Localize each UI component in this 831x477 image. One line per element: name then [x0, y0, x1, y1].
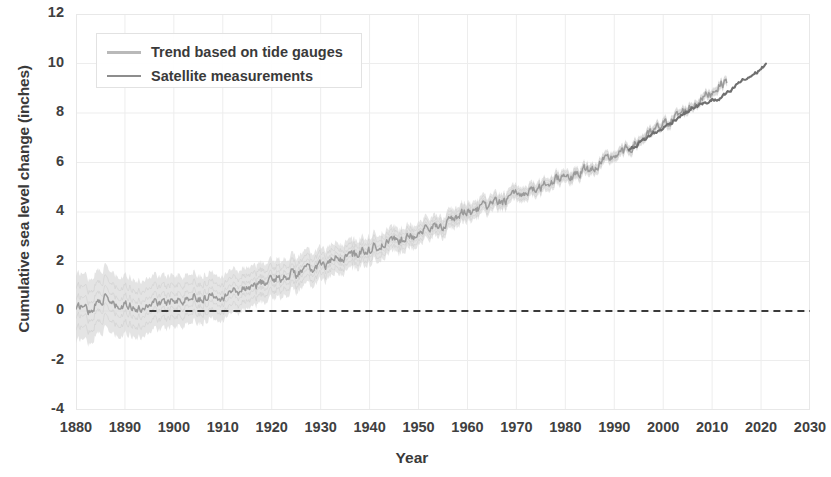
- y-tick--4: -4: [24, 400, 64, 416]
- y-tick-6: 6: [24, 153, 64, 169]
- y-tick--2: -2: [24, 351, 64, 367]
- x-axis-title: Year: [0, 449, 824, 467]
- satellite-measurements-line: [629, 64, 766, 150]
- legend-swatch-satellite-icon: [107, 75, 141, 77]
- y-tick-8: 8: [24, 103, 64, 119]
- y-tick-0: 0: [24, 301, 64, 317]
- legend-label-tide-gauges: Trend based on tide gauges: [151, 44, 343, 60]
- y-tick-4: 4: [24, 202, 64, 218]
- legend: Trend based on tide gauges Satellite mea…: [96, 33, 362, 88]
- legend-swatch-tide-gauges-icon: [107, 51, 141, 54]
- legend-item-satellite: Satellite measurements: [107, 64, 351, 88]
- x-tick-2030: 2030: [780, 419, 831, 435]
- y-tick-2: 2: [24, 252, 64, 268]
- y-tick-12: 12: [24, 4, 64, 20]
- legend-item-tide-gauges: Trend based on tide gauges: [107, 40, 351, 64]
- legend-label-satellite: Satellite measurements: [151, 68, 313, 84]
- y-tick-10: 10: [24, 54, 64, 70]
